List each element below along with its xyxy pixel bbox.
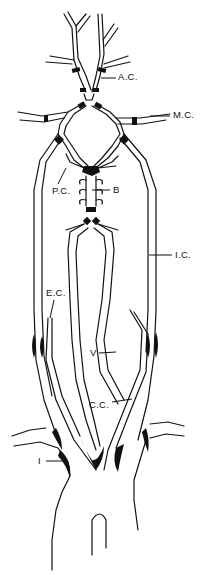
label-middle-cerebral: M.C. — [173, 110, 194, 120]
label-anterior-cerebral: A.C. — [118, 72, 138, 82]
vertebral-arteries — [66, 224, 124, 450]
label-internal-carotid: I.C. — [175, 250, 191, 260]
label-basilar: B — [113, 185, 120, 195]
aortic-arch — [12, 422, 184, 570]
label-vertebral: V — [90, 348, 97, 358]
label-external-carotid: E.C. — [46, 288, 66, 298]
circle-of-willis — [18, 94, 170, 168]
label-common-carotid: C.C. — [89, 400, 109, 410]
label-posterior-cerebral: P.C. — [52, 186, 70, 196]
label-innominate: I — [38, 456, 41, 466]
artery-diagram-drawing — [0, 0, 208, 575]
